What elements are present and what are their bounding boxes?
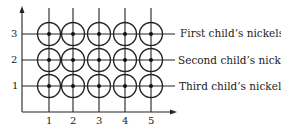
y-tick-1: 1: [12, 81, 18, 91]
x-axis-arrow-icon: [170, 110, 177, 115]
x-tick-3: 3: [96, 116, 102, 126]
row-label-second-child: Second child’s nickels: [178, 55, 281, 66]
row-label-third-child: Third child’s nickels: [179, 81, 281, 92]
y-tick-2: 2: [11, 55, 17, 65]
y-axis-arrow-icon: [20, 6, 25, 13]
x-tick-1: 1: [46, 116, 52, 126]
x-tick-5: 5: [148, 116, 154, 126]
x-tick-2: 2: [70, 116, 76, 126]
x-tick-4: 4: [122, 116, 128, 126]
nickels-grid-diagram: 3 2 1 1 2 3 4 5 First child’s nickels Se…: [0, 0, 281, 130]
y-tick-3: 3: [11, 29, 17, 39]
row-label-first-child: First child’s nickels: [180, 28, 281, 39]
